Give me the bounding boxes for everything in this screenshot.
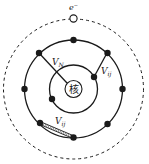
electron-outer-right <box>119 86 125 92</box>
electron-inner-lower-left <box>49 96 55 102</box>
v-ij-lower-sub: ij <box>61 120 65 128</box>
electron-outer-bottom <box>70 134 76 140</box>
atom-shell-diagram: 核 e⁻ VN Vij Vij <box>0 0 149 164</box>
free-electron-label: e⁻ <box>69 3 78 12</box>
v-ij-upper-sub: ij <box>107 70 111 78</box>
free-electron-open <box>70 15 77 22</box>
v-n-label: VN <box>52 57 65 68</box>
electron-outer-top <box>70 37 76 43</box>
v-ij-lower-label: Vij <box>55 116 65 128</box>
nucleus-label: 核 <box>69 83 79 95</box>
v-ij-upper-label: Vij <box>101 66 111 78</box>
v-ij-lower-line-b <box>40 125 73 139</box>
electron-outer-upper-left <box>36 50 42 56</box>
electron-outer-lower-right <box>104 121 110 127</box>
electron-outer-upper-right <box>104 50 110 56</box>
electron-outer-left <box>21 86 27 92</box>
v-n-sub: N <box>58 61 65 68</box>
electron-inner-upper-right <box>91 74 97 80</box>
electron-outer-lower-left <box>37 120 43 126</box>
